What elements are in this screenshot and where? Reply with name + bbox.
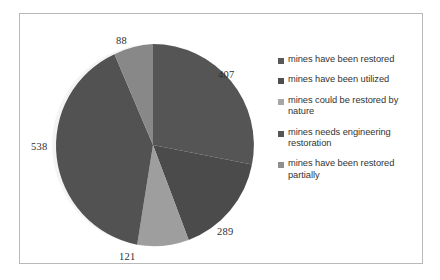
data-label-407: 407: [218, 69, 234, 80]
pie-chart-plot-area: 407 289 121 538 88: [20, 14, 270, 263]
legend-item-label: mines have been utilized: [288, 74, 389, 85]
legend-swatch-icon: [278, 58, 284, 64]
legend-item-label: mines have been restored partially: [288, 158, 423, 181]
data-label-538: 538: [31, 141, 47, 152]
legend-swatch-icon: [278, 162, 284, 168]
legend-item-label: mines could be restored by nature: [288, 95, 423, 118]
legend-item[interactable]: mines could be restored by nature: [278, 95, 423, 118]
legend-swatch-icon: [278, 78, 284, 84]
legend-item[interactable]: mines have been utilized: [278, 74, 423, 85]
legend-item-label: mines needs engineering restoration: [288, 127, 423, 150]
data-label-88: 88: [116, 35, 127, 46]
chart-frame: 407 289 121 538 88 mines have been resto…: [19, 13, 423, 264]
legend-item[interactable]: mines have been restored: [278, 54, 423, 65]
legend-item[interactable]: mines needs engineering restoration: [278, 127, 423, 150]
data-label-289: 289: [217, 226, 233, 237]
chart-legend: mines have been restored mines have been…: [278, 54, 423, 190]
legend-swatch-icon: [278, 131, 284, 137]
legend-item-label: mines have been restored: [288, 54, 394, 65]
legend-swatch-icon: [278, 99, 284, 105]
data-label-121: 121: [119, 251, 135, 262]
legend-item[interactable]: mines have been restored partially: [278, 158, 423, 181]
